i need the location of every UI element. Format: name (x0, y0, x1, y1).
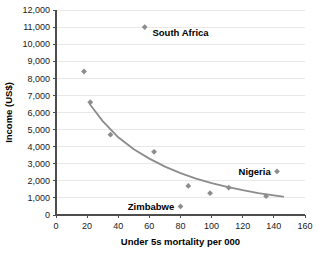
data-point-marker (207, 190, 213, 196)
y-axis-tick-label: 8,000 (27, 74, 50, 84)
data-point-marker (108, 132, 114, 138)
y-axis-tick-label: 7,000 (27, 91, 50, 101)
x-axis-title: Under 5s mortality per 000 (121, 236, 240, 247)
x-axis-tick-label: 40 (113, 221, 123, 231)
data-point-marker (226, 185, 232, 191)
x-axis-tick-label: 140 (266, 221, 281, 231)
chart-container: 01,0002,0003,0004,0005,0006,0007,0008,00… (0, 0, 317, 253)
point-annotation-label: South Africa (152, 27, 209, 38)
data-point-marker (185, 183, 191, 189)
annotations-group: South AfricaNigeriaZimbabwe (128, 27, 272, 212)
x-tick-labels-group: 020406080100120140160 (53, 221, 312, 231)
y-axis-tick-label: 2,000 (27, 176, 50, 186)
y-axis-tick-label: 0 (45, 210, 50, 220)
point-annotation-label: Zimbabwe (128, 201, 174, 212)
data-point-marker (274, 169, 280, 175)
y-axis-tick-label: 4,000 (27, 142, 50, 152)
axes-group (53, 10, 305, 218)
y-axis-tick-label: 6,000 (27, 108, 50, 118)
y-axis-tick-label: 3,000 (27, 159, 50, 169)
x-axis-tick-label: 20 (82, 221, 92, 231)
data-point-marker (151, 149, 157, 155)
income-vs-mortality-scatter-chart: 01,0002,0003,0004,0005,0006,0007,0008,00… (0, 0, 317, 253)
x-axis-tick-label: 120 (235, 221, 250, 231)
point-annotation-label: Nigeria (239, 166, 272, 177)
x-axis-tick-label: 160 (297, 221, 312, 231)
data-point-marker (81, 69, 87, 75)
y-axis-tick-label: 11,000 (23, 22, 50, 32)
data-point-marker (178, 204, 184, 210)
y-axis-title: Income (US$) (3, 82, 14, 143)
data-point-marker (142, 24, 148, 30)
x-axis-tick-label: 60 (144, 221, 154, 231)
y-axis-tick-label: 5,000 (27, 125, 50, 135)
y-axis-tick-label: 10,000 (22, 39, 50, 49)
y-axis-tick-label: 1,000 (27, 193, 50, 203)
trend-curve-group (90, 105, 283, 197)
trend-line (90, 105, 283, 197)
x-axis-tick-label: 100 (204, 221, 219, 231)
data-markers-group (81, 24, 280, 209)
x-axis-tick-label: 0 (53, 221, 58, 231)
x-axis-tick-label: 80 (175, 221, 185, 231)
y-axis-tick-label: 12,000 (22, 5, 50, 15)
y-axis-tick-label: 9,000 (27, 56, 50, 66)
y-tick-labels-group: 01,0002,0003,0004,0005,0006,0007,0008,00… (22, 5, 50, 220)
data-point-marker (87, 99, 93, 105)
